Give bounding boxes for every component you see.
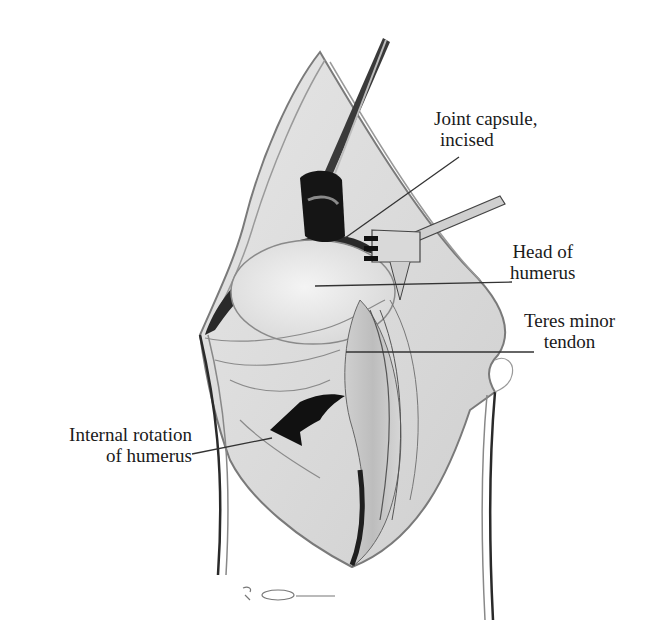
label-teres-minor-tendon: Teres minor tendon (524, 310, 615, 352)
label-internal-rotation: Internal rotation of humerus (8, 424, 192, 466)
artist-signature-icon (243, 587, 335, 600)
label-line: Teres minor (524, 310, 615, 331)
label-head-of-humerus: Head of humerus (510, 241, 575, 283)
label-line: of humerus (8, 445, 192, 466)
label-joint-capsule: Joint capsule, incised (434, 108, 537, 150)
label-line: Joint capsule, (434, 108, 537, 129)
label-line: tendon (524, 331, 615, 352)
label-line: humerus (510, 262, 575, 283)
label-line: Internal rotation (8, 424, 192, 445)
label-line: Head of (510, 241, 575, 262)
surgical-illustration: Joint capsule, incised Head of humerus T… (0, 0, 664, 633)
label-line: incised (434, 129, 537, 150)
